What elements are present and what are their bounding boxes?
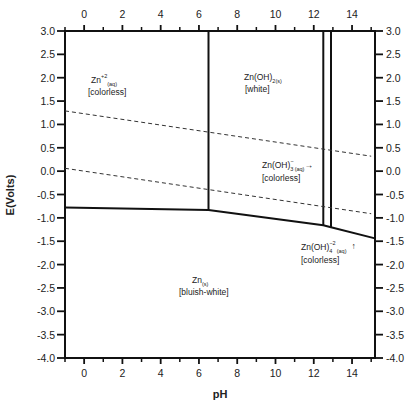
region-zn-oh-2-s: Zn(OH)2(s) [white] bbox=[244, 72, 282, 94]
svg-text:Zn(s): Zn(s) bbox=[192, 275, 209, 287]
region-zn-oh-4-aq: Zn(OH)4−2(aq)↑ [colorless] bbox=[301, 240, 356, 265]
x-tick-label-top: 6 bbox=[196, 8, 202, 20]
y-tick-label-left: 3.0 bbox=[40, 25, 55, 37]
svg-text:[colorless]: [colorless] bbox=[88, 87, 126, 97]
y-tick-label-left: -2.5 bbox=[37, 282, 55, 294]
x-tick-label-bottom: 10 bbox=[270, 367, 282, 379]
x-tick-label-bottom: 8 bbox=[234, 367, 240, 379]
water-stability-line bbox=[65, 111, 371, 156]
y-tick-label-left: 1.0 bbox=[40, 118, 55, 130]
x-tick-label-bottom: 2 bbox=[119, 367, 125, 379]
y-axis-title: E(Volts) bbox=[4, 174, 16, 215]
y-tick-label-right: -1.0 bbox=[386, 212, 404, 224]
svg-text:Zn(OH)2(s): Zn(OH)2(s) bbox=[244, 72, 282, 84]
x-tick-label-top: 10 bbox=[270, 8, 282, 20]
x-tick-label-bottom: 0 bbox=[81, 367, 87, 379]
y-tick-label-right: -4.0 bbox=[386, 352, 404, 364]
y-tick-label-left: 0.0 bbox=[40, 165, 55, 177]
svg-text:[colorless]: [colorless] bbox=[262, 173, 300, 183]
y-tick-label-left: 1.5 bbox=[40, 95, 55, 107]
y-tick-label-right: -3.5 bbox=[386, 329, 404, 341]
svg-text:Zn+2(aq): Zn+2(aq) bbox=[91, 73, 117, 87]
y-tick-label-left: 2.5 bbox=[40, 48, 55, 60]
x-tick-label-bottom: 12 bbox=[308, 367, 320, 379]
y-tick-label-right: 3.0 bbox=[386, 25, 401, 37]
svg-text:Zn(OH)4−2(aq)↑: Zn(OH)4−2(aq)↑ bbox=[301, 240, 356, 254]
y-tick-label-right: 2.0 bbox=[386, 72, 401, 84]
y-tick-label-right: 1.0 bbox=[386, 118, 401, 130]
x-tick-label-top: 14 bbox=[346, 8, 358, 20]
y-tick-label-left: 2.0 bbox=[40, 72, 55, 84]
y-tick-label-left: -3.5 bbox=[37, 329, 55, 341]
y-tick-label-right: -0.5 bbox=[386, 189, 404, 201]
y-tick-label-right: 0.0 bbox=[386, 165, 401, 177]
phase-boundary bbox=[65, 208, 375, 239]
y-tick-label-right: -1.5 bbox=[386, 235, 404, 247]
x-axis-title: pH bbox=[213, 388, 228, 400]
x-tick-label-bottom: 14 bbox=[346, 367, 358, 379]
x-tick-label-top: 2 bbox=[119, 8, 125, 20]
y-tick-label-left: -3.0 bbox=[37, 305, 55, 317]
y-tick-label-right: 2.5 bbox=[386, 48, 401, 60]
region-zn-s: Zn(s) [bluish-white] bbox=[179, 275, 229, 297]
x-tick-label-top: 12 bbox=[308, 8, 320, 20]
x-tick-label-top: 4 bbox=[158, 8, 164, 20]
y-tick-label-left: -4.0 bbox=[37, 352, 55, 364]
y-tick-label-left: -1.0 bbox=[37, 212, 55, 224]
x-tick-label-top: 8 bbox=[234, 8, 240, 20]
y-tick-label-left: -2.0 bbox=[37, 259, 55, 271]
svg-text:[colorless]: [colorless] bbox=[301, 255, 339, 265]
svg-text:Zn(OH)3−(aq)→: Zn(OH)3−(aq)→ bbox=[262, 158, 313, 172]
region-zn-oh-3-aq: Zn(OH)3−(aq)→ [colorless] bbox=[262, 158, 313, 183]
boundary-lines bbox=[65, 31, 375, 238]
y-tick-label-right: -2.0 bbox=[386, 259, 404, 271]
y-tick-label-right: 1.5 bbox=[386, 95, 401, 107]
y-tick-label-left: -1.5 bbox=[37, 235, 55, 247]
water-stability-line bbox=[65, 168, 371, 213]
x-tick-label-bottom: 4 bbox=[158, 367, 164, 379]
axes: 00224466881010121214143.03.02.52.52.02.0… bbox=[37, 8, 404, 379]
svg-text:[bluish-white]: [bluish-white] bbox=[179, 287, 229, 297]
y-tick-label-right: -2.5 bbox=[386, 282, 404, 294]
y-tick-label-right: 0.5 bbox=[386, 142, 401, 154]
x-tick-label-bottom: 6 bbox=[196, 367, 202, 379]
y-tick-label-right: -3.0 bbox=[386, 305, 404, 317]
x-tick-label-top: 0 bbox=[81, 8, 87, 20]
pourbaix-diagram: 00224466881010121214143.03.02.52.52.02.0… bbox=[0, 0, 415, 408]
y-tick-label-left: -0.5 bbox=[37, 189, 55, 201]
region-zn2-aq: Zn+2(aq) [colorless] bbox=[88, 73, 126, 97]
svg-text:[white]: [white] bbox=[245, 84, 270, 94]
y-tick-label-left: 0.5 bbox=[40, 142, 55, 154]
